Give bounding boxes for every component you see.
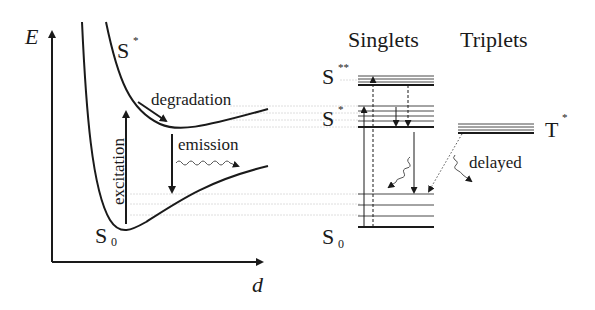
svg-text:**: ** [338, 61, 349, 73]
svg-text:0: 0 [111, 235, 117, 249]
left-panel: E d S * S 0 excitation degradation emiss… [24, 22, 268, 297]
s0-levels [358, 194, 434, 227]
svg-text:T: T [545, 117, 559, 142]
svg-text:0: 0 [338, 237, 344, 251]
svg-text:*: * [338, 103, 344, 115]
t1-levels [458, 124, 534, 133]
s1-label: S * [322, 103, 344, 131]
y-axis-label: E [24, 24, 39, 49]
s2-label: S ** [322, 61, 349, 89]
svg-text:S: S [322, 106, 334, 131]
svg-text:S: S [322, 64, 334, 89]
svg-text:*: * [562, 111, 568, 123]
x-axis-label: d [252, 272, 264, 297]
singlets-header: Singlets [348, 27, 419, 52]
emission-label: emission [178, 135, 239, 154]
s-star-curve-label: S * [117, 34, 139, 63]
excitation-label: excitation [109, 137, 128, 205]
s0-curve-label: S 0 [95, 223, 117, 249]
svg-text:S: S [95, 223, 107, 248]
triplets-header: Triplets [460, 27, 528, 52]
s-star-curve [106, 22, 268, 128]
wavy-s1-decay-arrow [389, 157, 410, 187]
svg-text:*: * [133, 34, 139, 46]
right-panel: Singlets Triplets S ** S * [322, 27, 568, 251]
wavy-decay-arrow [176, 161, 238, 166]
delayed-label: delayed [469, 153, 522, 172]
t1-label: T * [545, 111, 568, 142]
s2-levels [358, 76, 434, 85]
svg-text:S: S [322, 224, 334, 249]
svg-text:S: S [117, 38, 129, 63]
jablonski-diagram: E d S * S 0 excitation degradation emiss… [0, 0, 595, 310]
degradation-label: degradation [151, 90, 232, 109]
s0-label: S 0 [322, 224, 344, 251]
